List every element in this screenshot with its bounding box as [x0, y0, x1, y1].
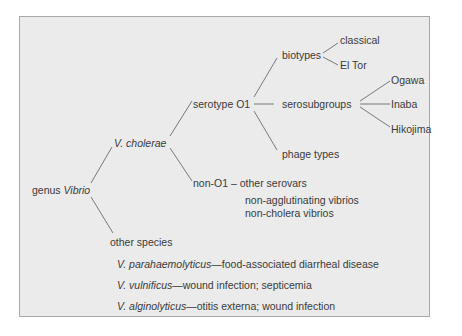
node-non-o1: non-O1 – other serovars — [193, 177, 307, 189]
node-v-cholerae: V. cholerae — [114, 137, 166, 149]
node-biotypes: biotypes — [282, 49, 321, 61]
node-serotype-o1: serotype O1 — [193, 98, 250, 110]
node-el-tor: El Tor — [340, 59, 367, 71]
node-hikojima: Hikojima — [391, 123, 431, 135]
genus-prefix: genus — [32, 184, 61, 196]
species-parahaemolyticus: V. parahaemolyticus—food-associated diar… — [117, 258, 379, 270]
edge-biotypes-classical — [323, 43, 338, 53]
note-non-agglutinating: non-agglutinating vibrios — [245, 194, 359, 206]
species-name: V. parahaemolyticus — [117, 258, 211, 270]
species-vulnificus: V. vulnificus—wound infection; septicemi… — [117, 279, 312, 291]
node-classical: classical — [340, 34, 380, 46]
species-name: V. alginolyticus — [117, 300, 186, 312]
node-ogawa: Ogawa — [391, 74, 424, 86]
node-serosubgroups: serosubgroups — [282, 98, 351, 110]
edge-o1-phage — [254, 111, 277, 150]
edge-genus-other — [91, 197, 113, 233]
edge-cholerae-nono1 — [170, 148, 192, 181]
node-other-species: other species — [110, 236, 172, 248]
edge-cholerae-o1 — [170, 101, 192, 136]
edge-o1-biotypes — [254, 58, 277, 97]
edge-biotypes-eltor — [323, 57, 338, 65]
edge-serosub-ogawa — [360, 81, 390, 101]
node-inaba: Inaba — [391, 98, 417, 110]
edge-genus-cholerae — [91, 147, 112, 183]
species-name: V. vulnificus — [117, 279, 172, 291]
species-desc: —otitis externa; wound infection — [186, 300, 335, 312]
node-phage-types: phage types — [282, 148, 339, 160]
note-non-cholera: non-cholera vibrios — [245, 207, 334, 219]
edge-serosub-hikojima — [360, 107, 390, 127]
species-desc: —food-associated diarrheal disease — [211, 258, 379, 270]
species-desc: —wound infection; septicemia — [172, 279, 312, 291]
genus-name: Vibrio — [64, 184, 91, 196]
node-genus-vibrio: genus Vibrio — [32, 184, 90, 196]
species-alginolyticus: V. alginolyticus—otitis externa; wound i… — [117, 300, 335, 312]
